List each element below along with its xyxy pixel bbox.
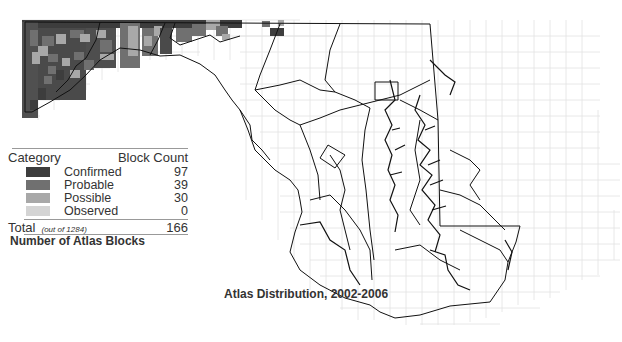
total-note: (out of 1284) [41, 225, 148, 234]
legend-label: Probable [64, 178, 148, 192]
legend-label: Possible [64, 191, 148, 205]
legend-row-observed: Observed 0 [8, 204, 188, 217]
legend-header: Category Block Count [8, 149, 188, 165]
legend-subtitle: Number of Atlas Blocks [10, 234, 145, 248]
potomac-river [240, 110, 270, 160]
legend-count: 0 [148, 204, 188, 218]
legend-total-row: Total (out of 1284) 166 [24, 219, 188, 235]
legend-row-possible: Possible 30 [8, 191, 188, 204]
legend-count: 39 [148, 178, 188, 192]
legend-label: Observed [64, 204, 148, 218]
legend-count: 30 [148, 191, 188, 205]
observed-swatch [26, 206, 50, 216]
legend: Category Block Count Confirmed 97 Probab… [8, 148, 188, 235]
legend-row-probable: Probable 39 [8, 178, 188, 191]
legend-header-count: Block Count [118, 150, 188, 165]
detection-blocks [22, 20, 284, 118]
legend-label: Confirmed [64, 165, 148, 179]
confirmed-swatch [26, 167, 50, 177]
legend-count: 97 [148, 165, 188, 179]
total-count: 166 [148, 220, 188, 235]
probable-swatch [26, 180, 50, 190]
legend-header-category: Category [8, 150, 61, 165]
total-label: Total [8, 220, 35, 235]
possible-swatch [26, 193, 50, 203]
map-title: Atlas Distribution, 2002-2006 [224, 287, 388, 301]
legend-row-confirmed: Confirmed 97 [8, 165, 188, 178]
